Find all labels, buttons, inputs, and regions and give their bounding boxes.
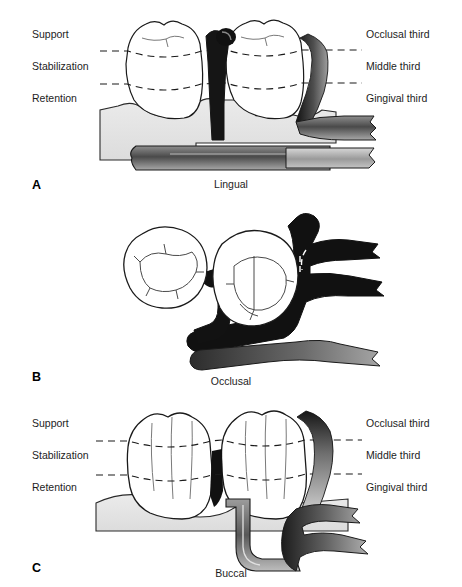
interproximal-contact-c xyxy=(210,449,223,507)
framework-extension-upper xyxy=(296,116,376,140)
panel-letter-c: C xyxy=(32,561,41,575)
retentive-mesh-fingers xyxy=(282,505,368,572)
occlusal-view-drawing: Occlusal xyxy=(0,200,462,395)
caption-lingual: Lingual xyxy=(214,178,248,190)
label-middle-third: Middle third xyxy=(366,60,420,72)
label-retention: Retention xyxy=(32,92,77,104)
label-stabilization-c: Stabilization xyxy=(32,449,89,461)
label-occlusal-third: Occlusal third xyxy=(366,28,430,40)
tooth-buccal-left xyxy=(127,413,212,519)
lingual-view-drawing: Support Stabilization Retention Occlusal… xyxy=(0,0,462,200)
label-gingival-third-c: Gingival third xyxy=(366,481,427,493)
buccal-view-drawing: Support Stabilization Retention Occlusal… xyxy=(0,395,462,587)
panel-buccal: Support Stabilization Retention Occlusal… xyxy=(0,395,462,587)
occlusal-rest-lingual xyxy=(216,28,236,46)
label-support-c: Support xyxy=(32,417,69,429)
tooth-occlusal-left xyxy=(124,227,207,308)
caption-buccal: Buccal xyxy=(215,567,247,579)
panel-letter-b: B xyxy=(32,370,41,384)
tooth-occlusal-right xyxy=(213,231,298,327)
caption-occlusal: Occlusal xyxy=(211,375,251,387)
label-middle-third-c: Middle third xyxy=(366,449,420,461)
label-gingival-third: Gingival third xyxy=(366,92,427,104)
tooth-crown-left xyxy=(126,21,203,118)
label-occlusal-third-c: Occlusal third xyxy=(366,417,430,429)
label-retention-c: Retention xyxy=(32,481,77,493)
framework-extension-lower xyxy=(286,148,375,168)
figure-footnote xyxy=(18,582,458,587)
panel-occlusal: Occlusal xyxy=(0,200,462,395)
label-stabilization: Stabilization xyxy=(32,60,89,72)
label-support: Support xyxy=(32,28,69,40)
panel-letter-a: A xyxy=(32,178,41,192)
panel-lingual: Support Stabilization Retention Occlusal… xyxy=(0,0,462,200)
tooth-crown-right xyxy=(226,20,304,118)
